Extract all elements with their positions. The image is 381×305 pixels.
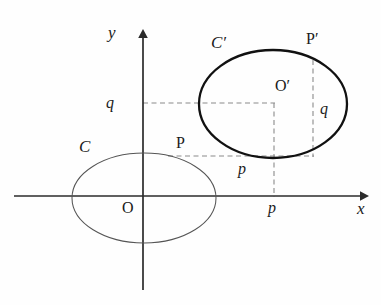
y-axis-label: y [108, 24, 116, 41]
point-p-label: P [176, 135, 185, 151]
origin-label: O [122, 200, 134, 216]
point-o-prime-label: O′ [275, 78, 290, 94]
coordinate-axes [14, 29, 369, 290]
point-p-prime-label: P′ [306, 31, 318, 47]
tick-q-y-axis: q [106, 95, 114, 111]
offset-q-vertical-label: q [320, 101, 328, 117]
offset-p-horizontal-label: p [238, 161, 246, 177]
curve-c-prime-label: C′ [211, 34, 226, 51]
figure-root: y x O C C′ P P′ O′ q p p q [0, 0, 381, 305]
y-axis-arrowhead [138, 29, 148, 38]
curve-c-label: C [79, 138, 90, 155]
curve-c-ellipse [72, 153, 216, 243]
diagram-canvas [0, 0, 381, 305]
tick-p-x-axis: p [268, 200, 276, 216]
x-axis-label: x [357, 200, 365, 217]
